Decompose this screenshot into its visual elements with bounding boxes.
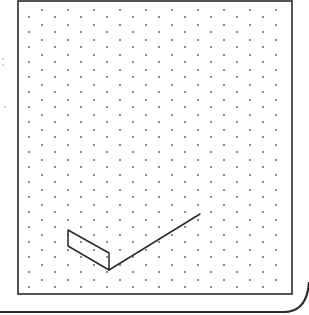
grid-dot	[80, 76, 82, 78]
grid-dot	[158, 286, 160, 288]
grid-dot	[54, 256, 56, 258]
margin-mark	[2, 64, 4, 66]
grid-dot	[249, 264, 251, 266]
grid-dot	[171, 129, 173, 131]
grid-dot	[158, 211, 160, 213]
grid-dot	[67, 264, 69, 266]
grid-dot	[145, 39, 147, 41]
grid-dot	[262, 196, 264, 198]
grid-dot	[41, 264, 43, 266]
grid-dot	[93, 249, 95, 251]
grid-dot	[41, 99, 43, 101]
grid-dot	[106, 226, 108, 228]
grid-dot	[54, 31, 56, 33]
grid-dot	[275, 99, 277, 101]
grid-dot	[80, 166, 82, 168]
grid-dot	[67, 144, 69, 146]
grid-dot	[184, 106, 186, 108]
grid-dot	[236, 91, 238, 93]
grid-dot	[158, 226, 160, 228]
grid-dot	[93, 69, 95, 71]
grid-dot	[249, 174, 251, 176]
grid-dot	[28, 46, 30, 48]
grid-dot	[275, 9, 277, 11]
grid-dot	[236, 196, 238, 198]
grid-dot	[158, 256, 160, 258]
grid-dot	[145, 54, 147, 56]
grid-dot	[158, 16, 160, 18]
grid-dot	[106, 241, 108, 243]
grid-dot	[145, 204, 147, 206]
grid-dot	[210, 256, 212, 258]
grid-dot	[54, 241, 56, 243]
grid-dot	[28, 121, 30, 123]
grid-dot	[184, 76, 186, 78]
grid-dot	[184, 211, 186, 213]
grid-dot	[197, 279, 199, 281]
grid-dot	[236, 16, 238, 18]
grid-dot	[210, 136, 212, 138]
grid-dot	[171, 9, 173, 11]
grid-dot	[223, 84, 225, 86]
grid-dot	[184, 271, 186, 273]
grid-dot	[275, 249, 277, 251]
grid-dot	[197, 84, 199, 86]
grid-dot	[119, 159, 121, 161]
grid-dot	[262, 181, 264, 183]
isometric-dot-paper	[0, 0, 309, 315]
grid-dot	[210, 196, 212, 198]
grid-dot	[106, 286, 108, 288]
grid-dot	[236, 181, 238, 183]
grid-dot	[262, 61, 264, 63]
grid-dot	[210, 16, 212, 18]
grid-dot	[275, 39, 277, 41]
grid-dot	[197, 144, 199, 146]
grid-dot	[275, 219, 277, 221]
grid-dot	[67, 204, 69, 206]
grid-dot	[262, 226, 264, 228]
grid-dot	[41, 84, 43, 86]
grid-dot	[67, 84, 69, 86]
grid-dot	[28, 211, 30, 213]
grid-dot	[145, 144, 147, 146]
grid-dot	[145, 24, 147, 26]
grid-dot	[249, 144, 251, 146]
grid-dot	[197, 249, 199, 251]
grid-dot	[28, 226, 30, 228]
grid-dot	[145, 129, 147, 131]
grid-dot	[184, 16, 186, 18]
grid-dot	[249, 9, 251, 11]
grid-dot	[197, 39, 199, 41]
grid-dot	[106, 136, 108, 138]
grid-dot	[41, 24, 43, 26]
grid-dot	[119, 69, 121, 71]
grid-dot	[93, 159, 95, 161]
grid-dot	[41, 129, 43, 131]
grid-dot	[275, 69, 277, 71]
grid-dot	[158, 76, 160, 78]
grid-dot	[184, 91, 186, 93]
grid-dot	[41, 234, 43, 236]
grid-dot	[93, 204, 95, 206]
grid-dot	[145, 114, 147, 116]
grid-dot	[249, 24, 251, 26]
grid-dot	[41, 9, 43, 11]
grid-dot	[223, 159, 225, 161]
grid-dot	[223, 69, 225, 71]
grid-dot	[80, 271, 82, 273]
grid-dot	[171, 114, 173, 116]
grid-dot	[210, 31, 212, 33]
grid-dot	[80, 91, 82, 93]
grid-dot	[28, 136, 30, 138]
grid-dot	[184, 61, 186, 63]
grid-dot	[236, 61, 238, 63]
grid-dot	[262, 256, 264, 258]
grid-dot	[171, 219, 173, 221]
grid-dot	[197, 9, 199, 11]
grid-dot	[54, 76, 56, 78]
grid-dot	[54, 121, 56, 123]
grid-dot	[262, 121, 264, 123]
grid-dot	[145, 9, 147, 11]
grid-dot	[158, 166, 160, 168]
grid-dot	[132, 166, 134, 168]
